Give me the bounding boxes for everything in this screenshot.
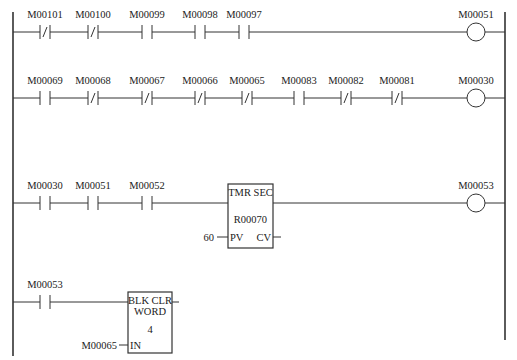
contact-label: M00083 xyxy=(281,75,317,86)
contact-label: M00081 xyxy=(379,75,415,86)
block-clear-block[interactable]: BLK CLR WORD 4 IN M00065 xyxy=(81,292,179,353)
contact-label: M00069 xyxy=(27,75,63,86)
normally-open-contact-m00099[interactable]: M00099 xyxy=(129,9,165,39)
contact-slash xyxy=(395,93,399,103)
contact-label: M00051 xyxy=(75,180,111,191)
timer-register-label: R00070 xyxy=(234,214,267,225)
contact-label: M00052 xyxy=(129,180,165,191)
contact-label: M00065 xyxy=(229,75,265,86)
contact-label: M00067 xyxy=(129,75,165,86)
rung-2: M00069M00068M00067M00066M00065M00083M000… xyxy=(13,75,505,107)
normally-open-contact-m00083[interactable]: M00083 xyxy=(281,75,317,105)
normally-open-contact-m00069[interactable]: M00069 xyxy=(27,75,63,105)
contact-label: M00098 xyxy=(182,9,218,20)
rungs-group: M00101M00100M00099M00098M00097M00051M000… xyxy=(13,9,505,309)
normally-closed-contact-m00065[interactable]: M00065 xyxy=(229,75,265,105)
coil-label: M00030 xyxy=(458,75,494,86)
normally-closed-contact-m00081[interactable]: M00081 xyxy=(379,75,415,105)
normally-closed-contact-m00100[interactable]: M00100 xyxy=(75,9,111,39)
normally-open-contact-m00052[interactable]: M00052 xyxy=(129,180,165,210)
timer-cv-pin: CV xyxy=(256,232,271,243)
output-coil-m00053[interactable]: M00053 xyxy=(458,180,494,212)
contact-slash xyxy=(91,27,95,37)
coil-label: M00051 xyxy=(458,9,494,20)
timer-block[interactable]: TMR SEC R00070 PV CV 60 xyxy=(204,184,282,248)
rung-4: M00053 xyxy=(13,279,128,309)
contact-slash xyxy=(43,27,47,37)
contact-label: M00100 xyxy=(75,9,111,20)
contact-slash xyxy=(245,93,249,103)
normally-closed-contact-m00082[interactable]: M00082 xyxy=(328,75,364,105)
contact-label: M00053 xyxy=(27,279,63,290)
coil-circle xyxy=(467,23,485,41)
ladder-diagram: M00101M00100M00099M00098M00097M00051M000… xyxy=(0,0,517,360)
contact-slash xyxy=(344,93,348,103)
contact-slash xyxy=(91,93,95,103)
normally-open-contact-m00051[interactable]: M00051 xyxy=(75,180,111,210)
rung-1: M00101M00100M00099M00098M00097M00051 xyxy=(13,9,505,41)
block-clear-length: 4 xyxy=(147,324,153,335)
normally-closed-contact-m00066[interactable]: M00066 xyxy=(182,75,218,105)
block-clear-title-1: BLK CLR xyxy=(128,295,172,306)
contact-label: M00068 xyxy=(75,75,111,86)
contact-slash xyxy=(198,93,202,103)
contact-label: M00082 xyxy=(328,75,364,86)
contact-label: M00101 xyxy=(27,9,63,20)
contact-label: M00099 xyxy=(129,9,165,20)
output-coil-m00051[interactable]: M00051 xyxy=(458,9,494,41)
coil-circle xyxy=(467,194,485,212)
contact-slash xyxy=(145,93,149,103)
block-clear-title-2: WORD xyxy=(134,306,166,317)
timer-block-title: TMR SEC xyxy=(228,187,273,198)
timer-preset-value: 60 xyxy=(204,232,215,243)
normally-closed-contact-m00101[interactable]: M00101 xyxy=(27,9,63,39)
normally-closed-contact-m00067[interactable]: M00067 xyxy=(129,75,165,105)
normally-open-contact-m00098[interactable]: M00098 xyxy=(182,9,218,39)
output-coil-m00030[interactable]: M00030 xyxy=(458,75,494,107)
normally-open-contact-m00097[interactable]: M00097 xyxy=(226,9,262,39)
block-clear-input-value: M00065 xyxy=(81,340,117,351)
coil-label: M00053 xyxy=(458,180,494,191)
normally-closed-contact-m00068[interactable]: M00068 xyxy=(75,75,111,105)
contact-label: M00097 xyxy=(226,9,262,20)
contact-label: M00030 xyxy=(27,180,63,191)
normally-open-contact-m00030[interactable]: M00030 xyxy=(27,180,63,210)
contact-label: M00066 xyxy=(182,75,218,86)
normally-open-contact-m00053[interactable]: M00053 xyxy=(27,279,63,309)
timer-pv-pin: PV xyxy=(230,232,244,243)
block-clear-in-pin: IN xyxy=(130,340,141,351)
coil-circle xyxy=(467,89,485,107)
